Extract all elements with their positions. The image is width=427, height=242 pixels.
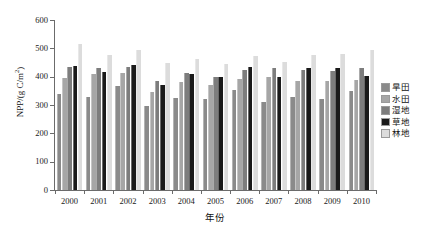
legend-item[interactable]: 旱田: [381, 82, 427, 93]
bar: [301, 70, 306, 190]
x-axis-tick-label: 2010: [341, 196, 381, 206]
legend-item-label: 林地: [392, 129, 410, 138]
bar: [144, 106, 149, 190]
bar: [78, 44, 83, 190]
legend-swatch-icon: [381, 129, 390, 138]
x-axis-tick: [376, 190, 377, 194]
bar: [330, 71, 335, 190]
bar: [126, 67, 131, 190]
x-axis-tick: [113, 190, 114, 194]
bar: [266, 77, 271, 190]
x-axis-tick: [55, 190, 56, 194]
bar: [208, 85, 213, 190]
legend-swatch-icon: [381, 83, 390, 92]
x-axis-tick: [347, 190, 348, 194]
bar: [203, 99, 208, 190]
bar-group: [318, 20, 347, 190]
bar: [364, 76, 369, 190]
bar-group: [230, 20, 259, 190]
chart-legend: 旱田水田湿地草地林地: [381, 82, 427, 140]
bar: [253, 56, 258, 190]
bar: [232, 90, 237, 190]
bar: [165, 63, 170, 190]
bar: [242, 70, 247, 190]
bar: [306, 68, 311, 190]
y-axis-tick-label: 600: [8, 16, 48, 24]
legend-item-label: 旱田: [392, 83, 410, 92]
bar: [354, 80, 359, 191]
bar: [295, 81, 300, 190]
bar-group: [172, 20, 201, 190]
bar: [150, 92, 155, 190]
bar: [335, 68, 340, 190]
legend-swatch-icon: [381, 95, 390, 104]
bar-group: [259, 20, 288, 190]
bar: [131, 65, 136, 190]
x-axis-tick: [230, 190, 231, 194]
bar: [311, 55, 316, 190]
bar: [359, 68, 364, 190]
bar: [370, 50, 375, 190]
bar: [248, 67, 253, 190]
bar: [179, 82, 184, 190]
x-axis-line: [54, 190, 376, 191]
legend-item[interactable]: 草地: [381, 117, 427, 128]
bar-group: [143, 20, 172, 190]
legend-swatch-icon: [381, 106, 390, 115]
bar: [102, 72, 107, 190]
bar: [340, 54, 345, 190]
x-axis-tick: [288, 190, 289, 194]
x-axis-tick: [143, 190, 144, 194]
legend-item-label: 草地: [392, 118, 410, 127]
bar-group: [347, 20, 376, 190]
legend-item-label: 湿地: [392, 106, 410, 115]
legend-item-label: 水田: [392, 95, 410, 104]
bar: [107, 55, 112, 190]
bar: [224, 64, 229, 190]
bar: [272, 68, 277, 190]
x-axis-tick: [201, 190, 202, 194]
bar: [115, 86, 120, 190]
chart-figure: 0100200300400500600 20002001200220032004…: [0, 0, 427, 242]
bar: [261, 102, 266, 190]
bar: [62, 78, 67, 190]
bar-group: [55, 20, 84, 190]
bar: [325, 81, 330, 190]
plot-area: [55, 20, 376, 190]
bar: [96, 68, 101, 190]
y-axis-tick-label: 100: [8, 157, 48, 165]
bar-group: [288, 20, 317, 190]
bar: [195, 59, 200, 190]
x-axis-tick: [84, 190, 85, 194]
legend-item[interactable]: 湿地: [381, 105, 427, 116]
bar: [120, 73, 125, 190]
bar: [189, 74, 194, 190]
bar: [57, 94, 62, 190]
legend-item[interactable]: 水田: [381, 94, 427, 105]
bar: [218, 77, 223, 190]
bar-group: [201, 20, 230, 190]
bar: [155, 81, 160, 190]
x-axis-tick: [172, 190, 173, 194]
bar: [173, 98, 178, 190]
y-axis-tick-label: 0: [8, 186, 48, 194]
bar-group: [113, 20, 142, 190]
bar: [319, 99, 324, 190]
bar: [160, 85, 165, 190]
y-axis-label: NPP/(g C/m2): [13, 42, 25, 142]
legend-item[interactable]: 林地: [381, 128, 427, 139]
x-axis-tick: [318, 190, 319, 194]
bar: [91, 74, 96, 190]
bar: [277, 77, 282, 190]
bar: [67, 67, 72, 190]
bar: [184, 73, 189, 190]
bar: [213, 77, 218, 190]
bar-group: [84, 20, 113, 190]
bar: [73, 66, 78, 190]
bar: [136, 50, 141, 190]
bar: [237, 79, 242, 190]
bar: [349, 91, 354, 190]
x-axis-label: 年份: [54, 210, 376, 224]
legend-swatch-icon: [381, 118, 390, 127]
x-axis-tick: [259, 190, 260, 194]
